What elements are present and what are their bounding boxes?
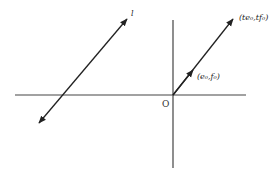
origin-label: O bbox=[162, 99, 169, 109]
diagram-canvas: l (e₀,f₀) (te₀,tf₀) O bbox=[0, 0, 278, 175]
unit-vector-arrow bbox=[173, 70, 193, 95]
line-l-label: l bbox=[131, 9, 134, 18]
scaled-vector-label: (te₀,tf₀) bbox=[239, 13, 268, 22]
line-l bbox=[39, 19, 127, 123]
unit-vector-label: (e₀,f₀) bbox=[197, 72, 220, 81]
